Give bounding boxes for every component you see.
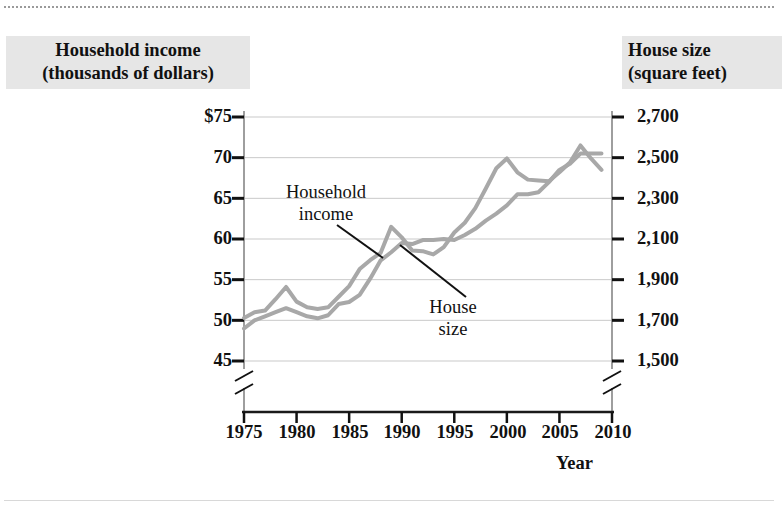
- y-tick-label-45: 45: [150, 350, 232, 371]
- y-tick-label-55: 55: [150, 269, 232, 290]
- y-tick-label-75: $75: [150, 106, 232, 127]
- leader-lines: [337, 225, 466, 297]
- left-axis-title: Household income (thousands of dollars): [6, 36, 250, 89]
- x-axis-name: Year: [556, 453, 593, 474]
- y2-tick-label-1900: 1,900: [637, 269, 679, 290]
- y-tick-label-70: 70: [150, 147, 232, 168]
- axis-lines: [242, 111, 614, 412]
- bottom-divider: [4, 500, 774, 501]
- y2-tick-label-1700: 1,700: [637, 310, 679, 331]
- y2-tick-label-2700: 2,700: [637, 106, 679, 127]
- chart-figure: Household income (thousands of dollars) …: [0, 0, 782, 507]
- right-axis-title: House size (square feet): [622, 36, 782, 89]
- axis-break-marks: [235, 371, 621, 394]
- series-label-household-income: Household income: [256, 181, 396, 225]
- y2-tick-label-1500: 1,500: [637, 350, 679, 371]
- series-label-house-size: House size: [406, 296, 500, 340]
- y2-tick-label-2300: 2,300: [637, 188, 679, 209]
- y-tick-label-60: 60: [150, 228, 232, 249]
- y2-tick-label-2500: 2,500: [637, 147, 679, 168]
- x-tick-label-2010: 2010: [577, 422, 649, 443]
- y-tick-label-50: 50: [150, 310, 232, 331]
- y-tick-label-65: 65: [150, 188, 232, 209]
- y2-tick-label-2100: 2,100: [637, 228, 679, 249]
- top-dotted-divider: [4, 6, 774, 8]
- tick-marks: [232, 117, 624, 423]
